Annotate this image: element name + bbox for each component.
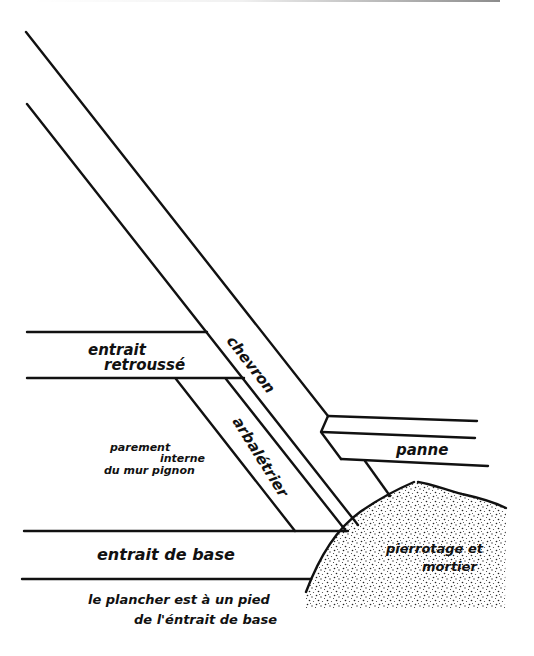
label-pierrotage-line2: mortier (422, 559, 478, 574)
roof-truss-diagram: chevron entrait retroussé arbalétrier pa… (0, 0, 534, 656)
label-pierrotage-line1: pierrotage et (385, 541, 484, 556)
label-note-line2: de l'éntrait de base (134, 612, 277, 627)
label-entrait-retrousse-line2: retroussé (104, 356, 185, 374)
label-parement-line3: du mur pignon (104, 464, 195, 477)
label-entrait-de-base: entrait de base (97, 545, 235, 564)
label-panne: panne (395, 441, 448, 459)
label-note-line1: le plancher est à un pied (88, 592, 271, 607)
